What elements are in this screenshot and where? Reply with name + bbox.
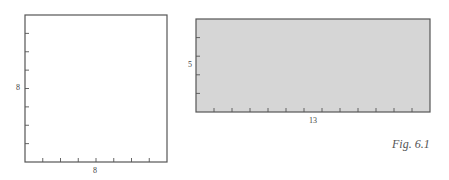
rectangle-width-label: 13 bbox=[309, 117, 317, 125]
square-width-label: 8 bbox=[93, 167, 97, 175]
figure-caption: Fig. 6.1 bbox=[392, 138, 430, 150]
square-8x8 bbox=[25, 15, 167, 162]
figure-canvas bbox=[0, 0, 449, 180]
rectangle-13x5 bbox=[196, 19, 430, 112]
square-height-label: 8 bbox=[16, 84, 20, 92]
rectangle-height-label: 5 bbox=[188, 61, 192, 69]
